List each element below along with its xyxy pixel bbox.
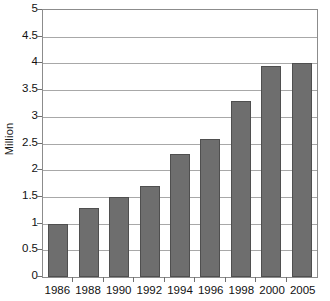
bar-slot [256,10,286,277]
bar[interactable] [261,66,281,277]
y-axis-tick-label: 1 [32,217,38,229]
x-axis-tick-label: 1996 [195,280,226,300]
bar-slot [43,10,73,277]
y-axis-tick-label: 2 [32,163,38,175]
y-axis-tick-label: 1.5 [22,190,38,202]
y-axis-tick-label: 4 [32,57,38,69]
bar[interactable] [109,197,129,277]
x-axis-tick-label: 1988 [73,280,104,300]
bar-slot [165,10,195,277]
bar-slot [195,10,225,277]
bar-series [43,10,317,277]
x-axis-tick-label: 2005 [287,280,318,300]
x-axis-tick-label: 1998 [226,280,257,300]
x-axis-tick-labels: 198619881990199219941996199820002005 [42,280,318,300]
y-axis-tick-label: 3 [32,110,38,122]
bar[interactable] [79,208,99,277]
bar-slot [104,10,134,277]
bar-slot [134,10,164,277]
y-axis-tick-label: 5 [32,3,38,15]
x-axis-tick-label: 1986 [42,280,73,300]
bar[interactable] [200,139,220,277]
y-axis-tick-labels: 54.543.532.521.510.50 [16,0,42,278]
x-axis-tick-label: 1994 [165,280,196,300]
bar[interactable] [140,186,160,277]
x-axis-tick-label: 1990 [103,280,134,300]
bar-slot [226,10,256,277]
y-axis-tick-label: 0 [32,270,38,282]
y-axis-tick-label: 4.5 [22,30,38,42]
bar[interactable] [231,101,251,277]
y-axis-tick-label: 2.5 [22,137,38,149]
y-axis-title-label: Million [3,123,15,156]
x-axis-tick-label: 1992 [134,280,165,300]
y-axis-tick-label: 3.5 [22,83,38,95]
bar-chart: Million 54.543.532.521.510.50 1986198819… [0,0,330,301]
plot-area [42,9,318,278]
bar[interactable] [170,154,190,277]
bar-slot [73,10,103,277]
bar[interactable] [48,224,68,277]
bar-slot [287,10,317,277]
x-axis-tick-label: 2000 [257,280,288,300]
bar[interactable] [292,63,312,277]
y-axis-tick-label: 0.5 [22,244,38,256]
